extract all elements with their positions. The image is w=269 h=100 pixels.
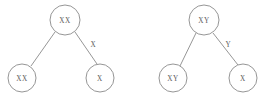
right-parent-node[interactable]: XY <box>189 5 219 35</box>
left-child-b-node[interactable]: X <box>86 64 114 92</box>
right-edge-to-child-b <box>213 33 238 65</box>
right-diagram: XY XY X Y <box>159 5 257 92</box>
right-edge-label: Y <box>225 41 231 49</box>
right-child-b-node[interactable]: X <box>229 64 257 92</box>
left-edge-to-child-a <box>31 32 55 66</box>
left-parent-node[interactable]: XX <box>50 5 80 35</box>
chromosome-inheritance-diagram: XX XX X X XY <box>0 0 269 100</box>
right-parent-node-label: XY <box>198 17 210 25</box>
left-parent-node-label: XX <box>59 17 71 25</box>
right-child-b-node-label: X <box>240 75 246 83</box>
diagram-canvas: XX XX X X XY <box>0 0 269 100</box>
left-child-a-node-label: XX <box>16 75 28 83</box>
left-child-b-node-label: X <box>97 75 103 83</box>
right-child-a-node-label: XY <box>167 75 179 83</box>
left-diagram: XX XX X X <box>8 5 114 92</box>
left-child-a-node[interactable]: XX <box>8 64 36 92</box>
left-edge-label: X <box>90 41 96 49</box>
right-edge-to-child-a <box>180 33 196 66</box>
right-child-a-node[interactable]: XY <box>159 64 187 92</box>
